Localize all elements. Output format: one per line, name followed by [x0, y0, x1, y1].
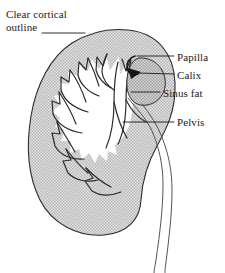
label-pelvis: Pelvis	[177, 116, 205, 129]
label-calix: Calix	[177, 69, 201, 82]
label-cortical-outline: Clear cortical outline	[6, 8, 101, 34]
kidney-diagram	[0, 0, 225, 273]
label-papilla: Papilla	[177, 51, 208, 64]
label-sinus-fat: Sinus fat	[163, 87, 203, 100]
